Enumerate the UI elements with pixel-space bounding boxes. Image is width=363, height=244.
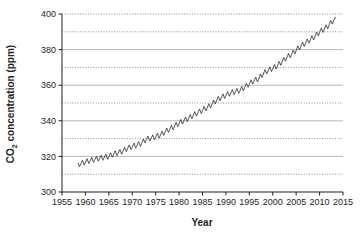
y-axis-title-prefix: CO xyxy=(5,148,16,163)
x-axis-title: Year xyxy=(191,217,212,228)
y-tick-label-400: 400 xyxy=(41,9,56,19)
x-tick-label-1990: 1990 xyxy=(216,197,236,207)
chart-canvas: 300320340360380400 195519601965197019751… xyxy=(0,0,363,244)
x-tick-label-2005: 2005 xyxy=(286,197,306,207)
y-tick-label-320: 320 xyxy=(41,152,56,162)
x-tick-label-1965: 1965 xyxy=(99,197,119,207)
x-tick-label-1975: 1975 xyxy=(146,197,166,207)
y-tick-label-340: 340 xyxy=(41,116,56,126)
x-tick-label-1980: 1980 xyxy=(169,197,189,207)
x-tick-label-2010: 2010 xyxy=(310,197,330,207)
x-tick-label-2000: 2000 xyxy=(263,197,283,207)
x-tick-label-2015: 2015 xyxy=(333,197,353,207)
x-tick-label-1970: 1970 xyxy=(122,197,142,207)
x-tick-label-1955: 1955 xyxy=(52,197,72,207)
x-tick-label-1960: 1960 xyxy=(75,197,95,207)
x-tick-label-1995: 1995 xyxy=(239,197,259,207)
y-axis-title-suffix: concentration (ppm) xyxy=(5,45,16,144)
x-tick-label-1985: 1985 xyxy=(192,197,212,207)
co2-concentration-chart-figure: 300320340360380400 195519601965197019751… xyxy=(0,0,363,244)
y-tick-label-360: 360 xyxy=(41,80,56,90)
y-tick-label-380: 380 xyxy=(41,45,56,55)
